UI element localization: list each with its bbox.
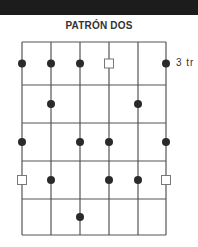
note-dot-icon bbox=[105, 176, 113, 184]
note-dot-icon bbox=[134, 100, 142, 108]
root-square-icon bbox=[162, 176, 171, 185]
root-square-icon bbox=[18, 176, 27, 185]
note-dot-icon bbox=[18, 60, 26, 68]
note-dot-icon bbox=[76, 60, 84, 68]
root-square-icon bbox=[105, 59, 114, 68]
note-dot-icon bbox=[76, 138, 84, 146]
fretboard-grid bbox=[22, 42, 166, 235]
note-dot-icon bbox=[47, 176, 55, 184]
note-dot-icon bbox=[47, 60, 55, 68]
note-dot-icon bbox=[76, 213, 84, 221]
note-dot-icon bbox=[47, 100, 55, 108]
note-dot-icon bbox=[162, 138, 170, 146]
fret-position-label: 3 tr bbox=[176, 57, 194, 68]
note-dot-icon bbox=[105, 138, 113, 146]
fretboard-diagram bbox=[0, 0, 198, 247]
note-dot-icon bbox=[18, 138, 26, 146]
note-markers bbox=[18, 59, 171, 221]
note-dot-icon bbox=[162, 60, 170, 68]
note-dot-icon bbox=[134, 176, 142, 184]
